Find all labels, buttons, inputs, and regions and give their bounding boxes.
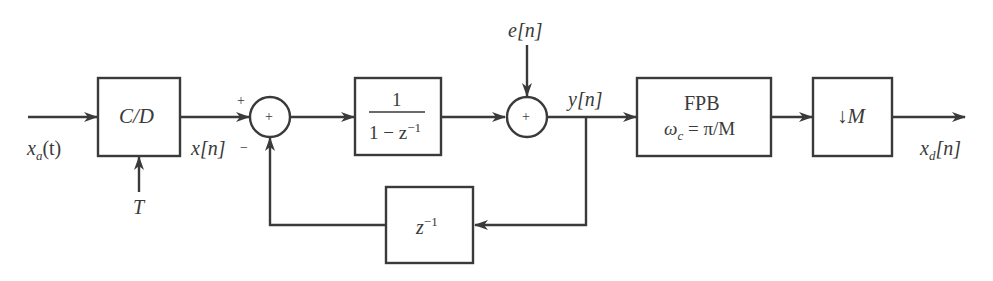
cd-block-label: C/D [119, 106, 154, 127]
noise-input-label: e[n] [508, 20, 542, 40]
summer2-symbol: + [522, 110, 530, 124]
delay-block-label: z−1 [416, 215, 438, 237]
summer1-symbol: + [265, 110, 273, 124]
down-arrow-icon: ↓ [837, 104, 848, 128]
lowpass-block-frame [637, 78, 771, 156]
decimated-output-label: xd[n] [920, 138, 961, 162]
sampling-period-label: T [133, 197, 144, 217]
accumulator-denominator: 1 − z−1 [369, 121, 421, 142]
accumulator-numerator: 1 [392, 90, 402, 109]
summer1-plus-sign: + [237, 94, 245, 108]
block-diagram: xa(t) C/D T x[n] + − + 1 1 − z−1 e[n] + … [0, 0, 993, 281]
analog-input-label: xa(t) [27, 138, 61, 162]
summer1-minus-sign: − [240, 141, 248, 155]
lowpass-block-title: FPB [684, 93, 720, 113]
feedback-arrow-to-summer [270, 138, 386, 225]
downsampler-label: ↓M [837, 106, 865, 127]
output-signal-label: y[n] [568, 89, 602, 109]
lowpass-cutoff-label: ωc = π/M [664, 119, 735, 142]
diagram-lines [0, 0, 993, 281]
sampled-signal-label: x[n] [191, 138, 225, 158]
feedback-arrow-to-delay [475, 117, 586, 225]
